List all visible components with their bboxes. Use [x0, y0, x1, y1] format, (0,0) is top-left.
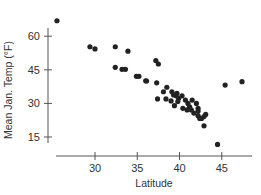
y-axis-title: Mean Jan. Temp (°F): [2, 41, 14, 139]
data-point: [190, 97, 195, 102]
data-point: [144, 78, 149, 83]
data-point: [239, 79, 244, 84]
data-point: [195, 108, 200, 113]
data-point: [154, 80, 159, 85]
data-points: [54, 18, 244, 147]
data-point: [113, 44, 118, 49]
data-point: [201, 123, 206, 128]
data-point: [113, 65, 118, 70]
data-point: [203, 112, 208, 117]
data-point: [136, 74, 141, 79]
y-axis: 15304560: [28, 28, 52, 143]
y-tick-label: 30: [28, 97, 40, 109]
data-point: [223, 82, 228, 87]
x-axis: 30354045: [56, 152, 252, 174]
data-point: [87, 44, 92, 49]
data-point: [125, 49, 130, 54]
data-point: [168, 98, 173, 103]
x-tick-label: 40: [173, 162, 185, 174]
x-axis-title: Latitude: [135, 177, 173, 189]
x-tick-label: 35: [131, 162, 143, 174]
data-point: [161, 89, 166, 94]
y-tick-label: 15: [28, 131, 40, 143]
data-point: [175, 99, 180, 104]
y-tick-label: 60: [28, 30, 40, 42]
data-point: [54, 18, 59, 23]
data-point: [123, 67, 128, 72]
data-point: [155, 96, 160, 101]
data-point: [185, 107, 190, 112]
data-point: [92, 46, 97, 51]
y-tick-label: 45: [28, 64, 40, 76]
scatter-chart: 15304560 30354045 Latitude Mean Jan. Tem…: [0, 0, 261, 195]
x-tick-label: 45: [216, 162, 228, 174]
x-tick-label: 30: [89, 162, 101, 174]
data-point: [163, 96, 168, 101]
data-point: [164, 85, 169, 90]
data-point: [215, 142, 220, 147]
data-point: [156, 61, 161, 66]
data-point: [194, 101, 199, 106]
data-point: [172, 103, 177, 108]
data-point: [179, 93, 184, 98]
